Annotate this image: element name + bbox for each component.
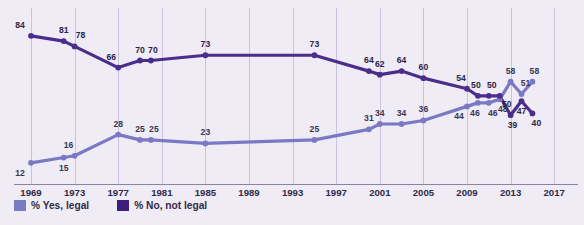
- svg-text:25: 25: [310, 124, 320, 134]
- chart-container: 1215162825252325313434364446464858515884…: [0, 0, 584, 225]
- svg-text:84: 84: [15, 20, 25, 30]
- svg-text:62: 62: [375, 59, 385, 69]
- svg-text:54: 54: [456, 73, 466, 83]
- svg-text:44: 44: [454, 111, 464, 121]
- svg-text:40: 40: [532, 118, 542, 128]
- line-chart-plot: 1215162825252325313434364446464858515884…: [0, 0, 584, 225]
- svg-text:25: 25: [149, 124, 159, 134]
- svg-text:36: 36: [419, 104, 429, 114]
- svg-text:58: 58: [530, 66, 540, 76]
- svg-text:50: 50: [471, 80, 481, 90]
- svg-text:1989: 1989: [238, 187, 259, 198]
- svg-text:64: 64: [397, 55, 407, 65]
- x-axis-tick-labels: 1969197319771981198519891993199720012005…: [20, 187, 565, 198]
- svg-text:1981: 1981: [151, 187, 173, 198]
- svg-text:28: 28: [113, 119, 123, 129]
- svg-text:2005: 2005: [413, 187, 435, 198]
- svg-text:70: 70: [148, 45, 158, 55]
- svg-text:1977: 1977: [108, 187, 129, 198]
- svg-text:2009: 2009: [456, 187, 477, 198]
- svg-text:34: 34: [375, 108, 385, 118]
- svg-text:78: 78: [76, 30, 86, 40]
- data-labels: 1215162825252325313434364446464858515884…: [15, 20, 541, 178]
- svg-text:58: 58: [506, 66, 516, 76]
- svg-text:60: 60: [419, 62, 429, 72]
- legend-item-yes[interactable]: % Yes, legal: [14, 200, 89, 211]
- svg-text:64: 64: [364, 55, 374, 65]
- svg-text:73: 73: [201, 39, 211, 49]
- svg-text:34: 34: [397, 108, 407, 118]
- svg-text:47: 47: [517, 106, 527, 116]
- svg-text:39: 39: [508, 120, 518, 130]
- svg-text:46: 46: [488, 108, 498, 118]
- svg-text:66: 66: [106, 52, 116, 62]
- legend-item-no[interactable]: % No, not legal: [117, 200, 207, 211]
- svg-text:1997: 1997: [326, 187, 347, 198]
- svg-text:23: 23: [201, 127, 211, 137]
- svg-text:50: 50: [502, 99, 512, 109]
- svg-text:70: 70: [135, 45, 145, 55]
- legend-label-yes: % Yes, legal: [31, 200, 89, 211]
- legend-swatch-no: [117, 200, 129, 211]
- svg-text:51: 51: [521, 78, 531, 88]
- svg-text:15: 15: [59, 163, 69, 173]
- svg-text:25: 25: [135, 124, 145, 134]
- svg-text:2001: 2001: [369, 187, 391, 198]
- svg-text:1969: 1969: [20, 187, 41, 198]
- svg-text:50: 50: [487, 80, 497, 90]
- data-points: [28, 33, 535, 166]
- chart-legend: % Yes, legal % No, not legal: [14, 200, 207, 211]
- svg-text:1993: 1993: [282, 187, 303, 198]
- svg-text:12: 12: [15, 168, 25, 178]
- svg-text:2017: 2017: [544, 187, 565, 198]
- legend-swatch-yes: [14, 200, 26, 211]
- svg-text:81: 81: [59, 25, 69, 35]
- svg-text:31: 31: [364, 113, 374, 123]
- svg-text:73: 73: [310, 39, 320, 49]
- svg-text:46: 46: [470, 108, 480, 118]
- svg-text:1973: 1973: [64, 187, 85, 198]
- legend-label-no: % No, not legal: [134, 200, 207, 211]
- svg-text:16: 16: [64, 140, 74, 150]
- svg-text:1985: 1985: [195, 187, 217, 198]
- svg-text:2013: 2013: [500, 187, 521, 198]
